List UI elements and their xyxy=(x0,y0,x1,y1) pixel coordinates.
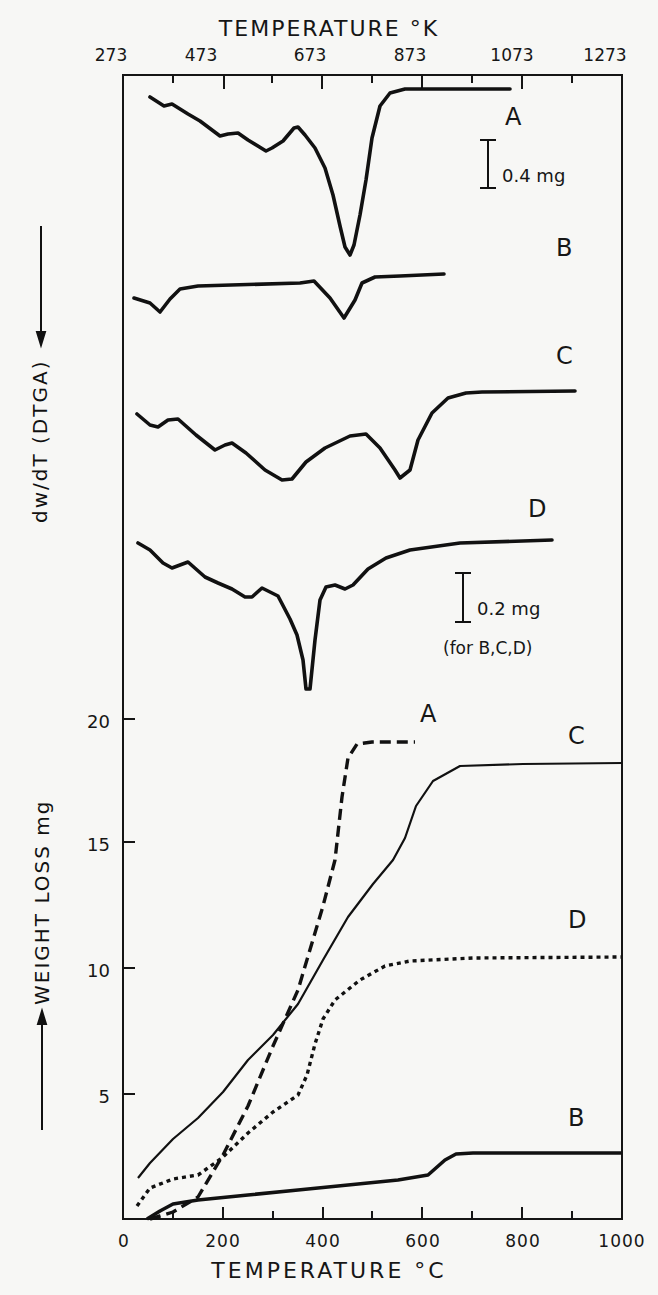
y-tick-label: 15 xyxy=(70,834,110,855)
scale-bar-a xyxy=(480,140,496,188)
tga-label-d: D xyxy=(568,906,586,934)
arrow-up-icon xyxy=(38,1011,46,1024)
top-ticks xyxy=(173,75,572,89)
scale-note-bcd: (for B,C,D) xyxy=(443,638,532,658)
bottom-tick-label: 600 xyxy=(405,1231,440,1251)
bottom-tick-label: 1000 xyxy=(598,1231,645,1251)
dtga-label-d: D xyxy=(528,495,546,523)
dtga-label-b: B xyxy=(556,234,572,262)
scale-bar-bcd xyxy=(455,573,471,622)
dtga-label-c: C xyxy=(556,342,573,370)
bottom-tick-label: 200 xyxy=(205,1231,240,1251)
plot-frame xyxy=(123,75,622,1219)
scale-label-a: 0.4 mg xyxy=(502,165,565,186)
arrow-down-icon xyxy=(37,332,45,345)
bottom-ticks xyxy=(173,1207,572,1219)
dtga-label-a: A xyxy=(505,103,521,131)
dtga-axis-label: dw/dT (DTGA) xyxy=(28,360,52,523)
dtga-curve-c xyxy=(137,391,575,480)
tga-curve-c xyxy=(138,763,622,1178)
bottom-axis-title: TEMPERATURE °C xyxy=(0,1258,658,1283)
tga-label-b: B xyxy=(568,1104,584,1132)
tga-curve-d xyxy=(137,957,622,1206)
left-ticks xyxy=(123,719,135,1094)
weight-axis-label: WEIGHT LOSS mg xyxy=(30,799,54,1005)
bottom-tick-label: 800 xyxy=(505,1231,540,1251)
y-tick-label: 10 xyxy=(70,960,110,981)
bottom-tick-label: 400 xyxy=(305,1231,340,1251)
y-tick-label: 20 xyxy=(70,711,110,732)
tga-label-c: C xyxy=(568,722,585,750)
tga-curve-a xyxy=(150,742,415,1219)
dtga-curve-b xyxy=(134,274,444,318)
scale-label-bcd: 0.2 mg xyxy=(477,598,540,619)
y-tick-label: 5 xyxy=(70,1086,110,1107)
dtga-curve-a xyxy=(150,89,510,255)
bottom-tick-label: 0 xyxy=(118,1231,130,1251)
tga-label-a: A xyxy=(420,700,436,728)
